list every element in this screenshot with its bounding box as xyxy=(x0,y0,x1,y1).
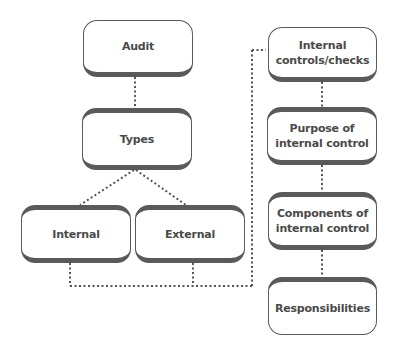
node-internal: Internal xyxy=(21,205,131,263)
node-internal-controls: Internal controls/checks xyxy=(268,27,377,82)
node-internal-label: Internal xyxy=(52,227,100,242)
node-responsibilities-label: Responsibilities xyxy=(275,301,370,316)
node-types-label: Types xyxy=(120,132,154,147)
node-purpose-label: Purpose of internal control xyxy=(275,121,368,151)
node-audit: Audit xyxy=(83,20,193,77)
node-types: Types xyxy=(82,108,192,170)
node-audit-label: Audit xyxy=(122,39,154,54)
audit-diagram: Audit Types Internal External Internal c… xyxy=(0,0,398,352)
node-responsibilities: Responsibilities xyxy=(268,277,377,335)
node-components-label: Components of internal control xyxy=(276,206,369,236)
node-purpose: Purpose of internal control xyxy=(267,107,377,165)
edge-types-internal xyxy=(80,170,134,205)
node-external-label: External xyxy=(165,227,215,242)
edge-types-external xyxy=(136,170,186,205)
node-components: Components of internal control xyxy=(268,192,377,250)
node-external: External xyxy=(135,205,245,263)
node-internal-controls-label: Internal controls/checks xyxy=(276,38,370,68)
